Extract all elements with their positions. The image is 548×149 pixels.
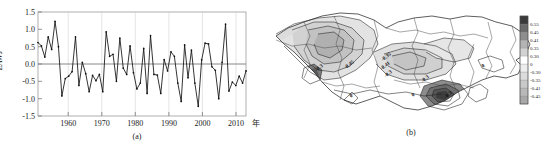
- data-point: [201, 59, 203, 61]
- data-point: [214, 69, 216, 71]
- x-tick-label: 1990: [161, 119, 177, 128]
- data-point: [51, 49, 53, 51]
- data-point: [41, 45, 43, 47]
- data-point: [105, 31, 107, 33]
- colorbar-swatch: [520, 16, 528, 24]
- data-point: [191, 49, 193, 51]
- x-tick-label: 1970: [94, 119, 110, 128]
- data-point: [232, 81, 234, 83]
- data-point: [85, 73, 87, 75]
- data-point: [88, 91, 90, 93]
- data-point: [58, 46, 60, 48]
- data-point: [122, 67, 124, 69]
- colorbar-swatch: [520, 48, 528, 56]
- x-axis-unit-label: 年: [252, 118, 260, 128]
- colorbar-tick-label: 0.41: [530, 38, 539, 43]
- data-point: [156, 74, 158, 76]
- data-point: [204, 42, 206, 44]
- y-tick-label: -1.0: [22, 95, 35, 104]
- x-tick-label: 2010: [228, 119, 244, 128]
- colorbar-tick-label: -0.45: [530, 94, 541, 99]
- panel-b-caption: (b): [274, 128, 548, 137]
- data-point: [109, 56, 111, 58]
- data-point: [170, 51, 172, 53]
- colorbar-swatch: [520, 72, 528, 80]
- timeseries-plot: 1.5 1.0 0.5 0.0 -0.5 -1.0 -1.5 1960 1970: [0, 0, 274, 132]
- data-point: [139, 82, 141, 84]
- data-point: [47, 36, 49, 38]
- data-point: [133, 72, 135, 74]
- data-point: [208, 43, 210, 45]
- data-point: [78, 85, 80, 87]
- data-point: [54, 21, 56, 23]
- data-point: [177, 82, 179, 84]
- data-point: [235, 85, 237, 87]
- data-point: [119, 37, 121, 39]
- data-point: [242, 82, 244, 84]
- colorbar-tick-label: -0.41: [530, 86, 541, 91]
- data-point: [136, 88, 138, 90]
- colorbar-swatch: [520, 24, 528, 32]
- colorbar-swatch: [520, 96, 528, 104]
- y-tick-label: 1.5: [25, 8, 35, 17]
- x-tick-labels: 1960 1970 1980 1990 2000 2010 年: [60, 118, 260, 128]
- y-axis-label: EAWJ: [0, 51, 4, 71]
- data-point: [197, 105, 199, 107]
- panel-a-caption: (a): [0, 132, 274, 141]
- data-point: [68, 75, 70, 77]
- data-point: [211, 66, 213, 68]
- data-point: [37, 42, 39, 44]
- colorbar-tick-label: 0.55: [530, 22, 539, 27]
- data-point: [112, 53, 114, 55]
- data-point: [44, 56, 46, 58]
- data-point: [153, 74, 155, 76]
- y-tick-label: -0.5: [22, 77, 35, 86]
- data-point: [99, 74, 101, 76]
- data-point: [92, 75, 94, 77]
- y-tick-label: -1.5: [22, 112, 35, 121]
- data-point: [194, 82, 196, 84]
- colorbar-swatch: [520, 56, 528, 64]
- data-point: [174, 56, 176, 58]
- data-point: [187, 77, 189, 79]
- data-point: [245, 70, 247, 72]
- contour-map: -0.3-0.45-0.35-0.41-0.3-0.30-0.300 0.550…: [274, 0, 548, 128]
- x-tick-label: 1960: [60, 119, 76, 128]
- data-point: [95, 80, 97, 82]
- data-point: [238, 75, 240, 77]
- data-point: [64, 78, 66, 80]
- colorbar-tick-label: 0.30: [530, 54, 539, 59]
- panel-a-timeseries: EAWJ: [0, 0, 274, 149]
- data-point: [146, 93, 148, 95]
- figure-container: EAWJ: [0, 0, 548, 149]
- data-point: [160, 93, 162, 95]
- data-point: [225, 23, 227, 25]
- colorbar-tick-label: -0.35: [530, 78, 541, 83]
- colorbar-tick-label: 0.45: [530, 30, 539, 35]
- colorbar-swatch: [520, 80, 528, 88]
- data-point: [184, 44, 186, 46]
- data-point: [221, 61, 223, 63]
- colorbar-swatch: [520, 88, 528, 96]
- data-point: [61, 95, 63, 97]
- y-tick-label: 1.0: [25, 25, 35, 34]
- x-tick-label: 1980: [127, 119, 143, 128]
- data-point: [218, 98, 220, 100]
- data-point: [75, 36, 77, 38]
- colorbar-swatch: [520, 40, 528, 48]
- data-point: [116, 80, 118, 82]
- colorbar-tick-label: 0: [530, 62, 533, 67]
- y-tick-label: 0.5: [25, 43, 35, 52]
- colorbar-swatch: [520, 64, 528, 72]
- colorbar-swatch: [520, 32, 528, 40]
- data-point: [126, 74, 128, 76]
- data-point: [163, 59, 165, 61]
- y-tick-labels: 1.5 1.0 0.5 0.0 -0.5 -1.0 -1.5: [22, 8, 35, 121]
- colorbar: 0.550.450.410.350.300-0.30-0.35-0.41-0.4…: [520, 16, 541, 104]
- data-point: [71, 71, 73, 73]
- colorbar-tick-label: -0.30: [530, 70, 541, 75]
- colorbar-tick-label: 0.35: [530, 46, 539, 51]
- data-point: [143, 48, 145, 50]
- panel-b-contour-map: -0.3-0.45-0.35-0.41-0.3-0.30-0.300 0.550…: [274, 0, 548, 149]
- data-point: [180, 101, 182, 103]
